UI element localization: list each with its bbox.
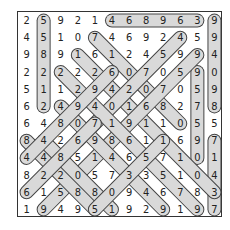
grid-cell[interactable]: 1 [172,201,189,218]
grid-cell[interactable]: 0 [206,63,223,80]
grid-cell[interactable]: 5 [206,115,223,132]
grid-cell[interactable]: 5 [86,166,103,183]
grid-cell[interactable]: 9 [35,201,52,218]
grid-cell[interactable]: 5 [35,29,52,46]
grid-cell[interactable]: 7 [206,132,223,149]
grid-cell[interactable]: 6 [155,184,172,201]
grid-cell[interactable]: 2 [18,12,35,29]
grid-cell[interactable]: 9 [121,115,138,132]
grid-cell[interactable]: 9 [18,46,35,63]
grid-cell[interactable]: 2 [121,46,138,63]
grid-cell[interactable]: 9 [189,201,206,218]
grid-cell[interactable]: 3 [138,166,155,183]
grid-cell[interactable]: 2 [138,201,155,218]
grid-cell[interactable]: 4 [35,115,52,132]
grid-cell[interactable]: 8 [52,149,69,166]
grid-cell[interactable]: 0 [69,115,86,132]
grid-cell[interactable]: 6 [172,12,189,29]
grid-cell[interactable]: 6 [138,98,155,115]
grid-cell[interactable]: 4 [103,149,120,166]
grid-cell[interactable]: 5 [69,149,86,166]
grid-cell[interactable]: 0 [69,166,86,183]
grid-cell[interactable]: 9 [172,46,189,63]
grid-cell[interactable]: 9 [155,12,172,29]
grid-cell[interactable]: 0 [138,81,155,98]
grid-cell[interactable]: 8 [18,132,35,149]
grid-cell[interactable]: 5 [172,63,189,80]
grid-cell[interactable]: 4 [52,201,69,218]
grid-cell[interactable]: 6 [103,63,120,80]
grid-cell[interactable]: 8 [52,115,69,132]
grid-cell[interactable]: 5 [189,115,206,132]
grid-cell[interactable]: 8 [138,12,155,29]
grid-cell[interactable]: 0 [172,115,189,132]
grid-cell[interactable]: 8 [86,184,103,201]
grid-cell[interactable]: 4 [18,149,35,166]
grid-cell[interactable]: 4 [172,29,189,46]
grid-cell[interactable]: 6 [121,29,138,46]
grid-cell[interactable]: 9 [189,63,206,80]
grid-cell[interactable]: 5 [189,29,206,46]
grid-cell[interactable]: 9 [86,132,103,149]
grid-cell[interactable]: 6 [121,12,138,29]
grid-cell[interactable]: 9 [52,12,69,29]
grid-cell[interactable]: 9 [155,201,172,218]
grid-cell[interactable]: 2 [35,98,52,115]
grid-cell[interactable]: 9 [138,29,155,46]
grid-cell[interactable]: 2 [121,81,138,98]
grid-cell[interactable]: 5 [155,46,172,63]
grid-cell[interactable]: 7 [172,184,189,201]
grid-cell[interactable]: 0 [103,98,120,115]
grid-cell[interactable]: 8 [189,184,206,201]
grid-cell[interactable]: 9 [189,132,206,149]
grid-cell[interactable]: 2 [69,63,86,80]
grid-cell[interactable]: 1 [86,149,103,166]
grid-cell[interactable]: 1 [121,98,138,115]
grid-cell[interactable]: 2 [18,63,35,80]
grid-cell[interactable]: 6 [18,115,35,132]
grid-cell[interactable]: 0 [69,29,86,46]
grid-cell[interactable]: 1 [103,115,120,132]
grid-cell[interactable]: 1 [18,201,35,218]
grid-cell[interactable]: 0 [103,184,120,201]
grid-cell[interactable]: 2 [69,12,86,29]
grid-cell[interactable]: 4 [35,149,52,166]
grid-cell[interactable]: 5 [138,149,155,166]
grid-cell[interactable]: 2 [52,63,69,80]
grid-cell[interactable]: 9 [69,98,86,115]
grid-cell[interactable]: 7 [155,149,172,166]
grid-cell[interactable]: 5 [86,201,103,218]
grid-cell[interactable]: 3 [189,12,206,29]
grid-cell[interactable]: 0 [189,149,206,166]
grid-cell[interactable]: 9 [189,46,206,63]
grid-cell[interactable]: 9 [86,81,103,98]
grid-cell[interactable]: 1 [206,149,223,166]
grid-cell[interactable]: 1 [138,115,155,132]
grid-cell[interactable]: 1 [155,132,172,149]
grid-cell[interactable]: 8 [35,46,52,63]
grid-cell[interactable]: 4 [206,46,223,63]
grid-cell[interactable]: 8 [18,166,35,183]
grid-cell[interactable]: 7 [86,29,103,46]
grid-cell[interactable]: 2 [35,63,52,80]
grid-cell[interactable]: 0 [121,63,138,80]
grid-cell[interactable]: 5 [18,81,35,98]
grid-cell[interactable]: 4 [103,29,120,46]
grid-cell[interactable]: 6 [69,132,86,149]
grid-cell[interactable]: 7 [206,201,223,218]
grid-cell[interactable]: 1 [52,81,69,98]
grid-cell[interactable]: 5 [189,81,206,98]
grid-cell[interactable]: 9 [206,29,223,46]
grid-cell[interactable]: 5 [35,12,52,29]
grid-cell[interactable]: 7 [86,115,103,132]
grid-cell[interactable]: 4 [138,184,155,201]
grid-cell[interactable]: 2 [52,132,69,149]
grid-cell[interactable]: 8 [206,98,223,115]
grid-cell[interactable]: 1 [103,46,120,63]
grid-cell[interactable]: 2 [35,166,52,183]
grid-cell[interactable]: 1 [172,166,189,183]
grid-cell[interactable]: 9 [206,12,223,29]
grid-cell[interactable]: 9 [52,46,69,63]
grid-cell[interactable]: 2 [155,29,172,46]
grid-cell[interactable]: 6 [18,98,35,115]
